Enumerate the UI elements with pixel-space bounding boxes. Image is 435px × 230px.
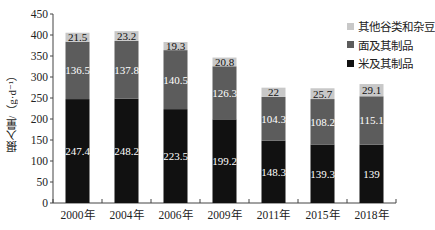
y-tick-label: 100 — [31, 155, 49, 167]
x-tick-label: 2018年 — [355, 208, 389, 221]
y-axis: 050100150200250300350400450 — [31, 8, 53, 209]
legend-item-rice: 米及其制品 — [347, 54, 435, 73]
bar-value-label: 140.5 — [163, 74, 188, 86]
legend-swatch — [347, 60, 354, 67]
y-tick-label: 50 — [37, 176, 49, 188]
x-tick-label: 2009年 — [208, 208, 242, 221]
bar-value-label: 223.5 — [163, 150, 188, 162]
legend-label: 其他谷类和杂豆 — [358, 18, 435, 34]
bar-value-label: 29.1 — [362, 84, 381, 96]
y-tick-label: 400 — [31, 29, 49, 41]
legend-label: 米及其制品 — [358, 55, 413, 71]
y-tick-label: 450 — [31, 8, 49, 20]
bar-value-label: 22 — [268, 86, 279, 98]
legend: 其他谷类和杂豆 面及其制品 米及其制品 — [347, 17, 435, 73]
bar-value-label: 104.3 — [261, 113, 286, 125]
legend-item-wheat: 面及其制品 — [347, 36, 435, 55]
bar-value-label: 148.3 — [261, 166, 286, 178]
x-tick-label: 2015年 — [306, 208, 340, 221]
bar-value-label: 108.2 — [310, 116, 335, 128]
y-tick-label: 300 — [31, 71, 49, 83]
bar-value-label: 139 — [363, 168, 380, 180]
legend-swatch — [347, 23, 354, 30]
y-tick-label: 0 — [42, 197, 48, 209]
bar-value-label: 19.3 — [166, 40, 186, 52]
legend-swatch — [347, 41, 354, 48]
bar-value-label: 139.3 — [310, 168, 335, 180]
bar-value-label: 21.5 — [68, 31, 88, 43]
bar-value-label: 248.2 — [114, 145, 139, 157]
legend-label: 面及其制品 — [358, 37, 413, 53]
y-tick-label: 350 — [31, 50, 49, 62]
bar-value-label: 20.8 — [215, 56, 235, 68]
bar-value-label: 25.7 — [313, 88, 333, 100]
bars: 247.4136.521.5248.2137.823.2223.5140.519… — [65, 30, 384, 203]
x-tick-label: 2011年 — [257, 208, 291, 221]
bar-value-label: 137.8 — [114, 64, 139, 76]
bar-value-label: 23.2 — [117, 30, 136, 42]
bar-value-label: 115.1 — [359, 114, 383, 126]
y-tick-label: 200 — [31, 113, 49, 125]
y-tick-label: 250 — [31, 92, 49, 104]
bar-value-label: 247.4 — [65, 145, 90, 157]
x-tick-label: 2006年 — [159, 208, 193, 221]
bar-value-label: 136.5 — [65, 64, 90, 76]
x-tick-label: 2004年 — [110, 208, 144, 221]
bar-value-label: 199.2 — [212, 155, 237, 167]
y-axis-label: 摄入量/（g·d⁻¹） — [6, 70, 20, 152]
legend-item-other-grains: 其他谷类和杂豆 — [347, 17, 435, 36]
x-tick-label: 2000年 — [61, 208, 95, 221]
bar-value-label: 126.3 — [212, 87, 237, 99]
y-tick-label: 150 — [31, 134, 49, 146]
